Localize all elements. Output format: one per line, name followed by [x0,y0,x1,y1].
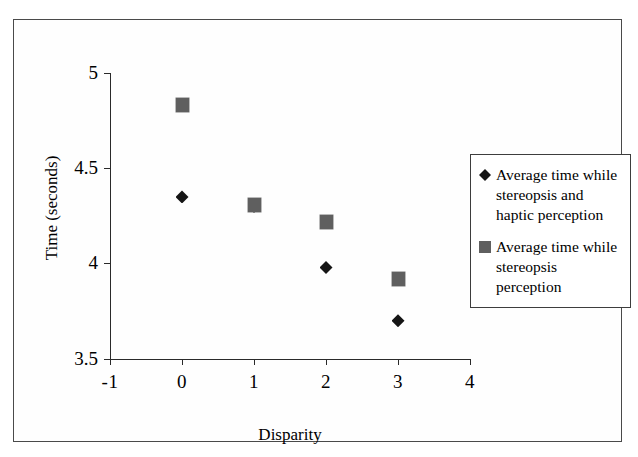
x-axis-tick [398,359,399,365]
legend-entry: Average time while stereopsis and haptic… [479,165,625,225]
data-point-square [320,215,333,229]
x-axis-tick-label: 3 [368,370,428,394]
x-axis-tick-label: 1 [224,370,284,394]
legend-entry-label: Average time while stereopsis and haptic… [496,165,625,225]
x-axis-tick-label: 4 [440,370,500,394]
data-point-diamond [392,314,405,327]
x-axis-tick-label: -1 [80,370,140,394]
data-point-square [392,272,405,286]
x-axis-tick [470,359,471,365]
data-point-square [176,98,189,112]
x-axis-line [110,359,470,360]
x-axis-tick [254,359,255,365]
y-axis-tick [104,168,110,169]
data-point-square [248,198,261,212]
figure-frame: 5 4.5 4 3.5 -1 0 1 2 3 4 Disparity Time … [13,19,622,442]
y-axis-tick [104,73,110,74]
x-axis-tick-label: 0 [152,370,212,394]
legend-entry-label: Average time while stereopsis perception [496,237,625,297]
legend: Average time while stereopsis and haptic… [470,154,631,308]
legend-entry: Average time while stereopsis perception [479,237,625,297]
x-axis-tick [182,359,183,365]
x-axis-tick-label: 2 [296,370,356,394]
y-axis-tick-label: 3.5 [36,349,98,369]
x-axis-title: Disparity [110,425,470,445]
y-axis-line [110,73,111,360]
data-point-diamond [320,261,333,274]
y-axis-title: Time (seconds) [42,108,62,308]
legend-square-marker-icon [479,241,491,253]
data-point-diamond [176,190,189,203]
x-axis-tick [110,359,111,365]
legend-diamond-marker-icon [479,169,491,181]
x-axis-tick [326,359,327,365]
y-axis-tick [104,263,110,264]
y-axis-tick-label: 5 [36,63,98,83]
